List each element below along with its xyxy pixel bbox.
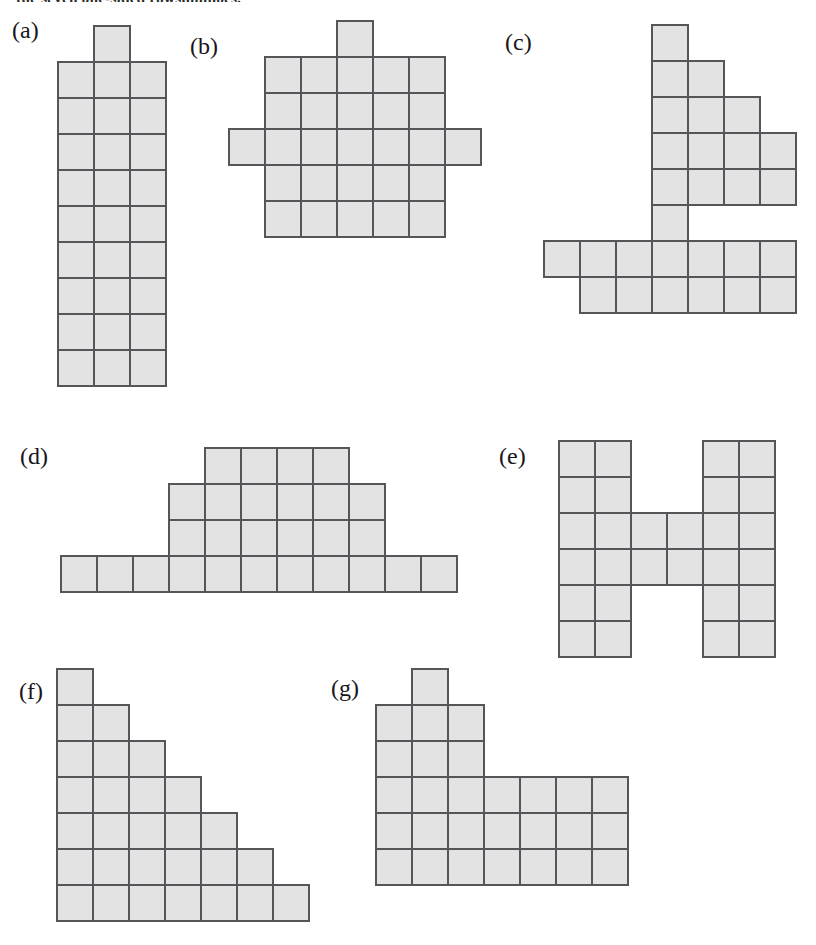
grid-cell (236, 848, 274, 886)
grid-cell (312, 483, 350, 521)
grid-cell (630, 512, 668, 550)
grid-cell (594, 548, 632, 586)
grid-cell (92, 740, 130, 778)
grid-cell (651, 60, 689, 98)
grid-cell (164, 812, 202, 850)
grid-cell (687, 60, 725, 98)
grid-cell (164, 884, 202, 922)
grid-cell (276, 483, 314, 521)
grid-cell (92, 704, 130, 742)
grid-cell (408, 164, 446, 202)
grid-cell (57, 313, 95, 351)
grid-cell (372, 56, 410, 94)
grid-cell (759, 132, 797, 170)
grid-cell (348, 519, 386, 557)
grid-cell (336, 164, 374, 202)
grid-cell (411, 668, 449, 706)
grid-cell (702, 584, 740, 622)
grid-cell (92, 884, 130, 922)
shape-label-f: (f) (19, 679, 43, 703)
grid-cell (93, 205, 131, 243)
grid-cell (372, 164, 410, 202)
grid-cell (132, 555, 170, 593)
grid-cell (56, 884, 94, 922)
grid-cell (408, 56, 446, 94)
grid-cell (129, 133, 167, 171)
grid-cell (129, 169, 167, 207)
grid-cell (93, 241, 131, 279)
grid-cell (264, 164, 302, 202)
grid-cell (483, 848, 521, 886)
grid-cell (93, 313, 131, 351)
grid-cell (57, 169, 95, 207)
grid-cell (164, 848, 202, 886)
grid-cell (372, 92, 410, 130)
grid-cell (738, 440, 776, 478)
grid-cell (200, 812, 238, 850)
grid-cell (93, 25, 131, 63)
grid-cell (759, 240, 797, 278)
grid-cell (555, 848, 593, 886)
grid-cell (738, 584, 776, 622)
grid-cell (236, 884, 274, 922)
grid-cell (57, 133, 95, 171)
grid-cell (336, 92, 374, 130)
grid-cell (336, 128, 374, 166)
grid-cell (411, 740, 449, 778)
grid-cell (447, 740, 485, 778)
grid-cell (129, 349, 167, 387)
grid-cell (93, 169, 131, 207)
grid-cell (447, 776, 485, 814)
grid-cell (594, 440, 632, 478)
grid-cell (408, 92, 446, 130)
grid-cell (312, 555, 350, 593)
grid-cell (57, 61, 95, 99)
grid-cell (594, 620, 632, 658)
grid-cell (738, 476, 776, 514)
grid-cell (56, 848, 94, 886)
grid-cell (336, 200, 374, 238)
grid-cell (129, 313, 167, 351)
grid-cell (579, 276, 617, 314)
grid-cell (666, 512, 704, 550)
grid-cell (375, 704, 413, 742)
grid-cell (60, 555, 98, 593)
grid-cell (128, 740, 166, 778)
grid-cell (519, 812, 557, 850)
grid-cell (128, 812, 166, 850)
grid-cell (93, 97, 131, 135)
shape-label-e: (e) (499, 444, 526, 468)
grid-cell (558, 476, 596, 514)
grid-cell (615, 240, 653, 278)
grid-cell (375, 776, 413, 814)
grid-cell (129, 205, 167, 243)
shape-label-d: (d) (20, 444, 48, 468)
grid-cell (594, 584, 632, 622)
grid-cell (276, 447, 314, 485)
grid-cell (759, 276, 797, 314)
grid-cell (555, 812, 593, 850)
grid-cell (702, 548, 740, 586)
grid-cell (93, 133, 131, 171)
grid-cell (723, 132, 761, 170)
grid-cell (687, 240, 725, 278)
grid-cell (240, 519, 278, 557)
grid-cell (204, 483, 242, 521)
grid-cell (375, 740, 413, 778)
grid-cell (411, 704, 449, 742)
grid-cell (651, 276, 689, 314)
grid-cell (57, 205, 95, 243)
grid-cell (312, 519, 350, 557)
grid-cell (129, 61, 167, 99)
grid-cell (543, 240, 581, 278)
grid-cell (56, 740, 94, 778)
grid-cell (447, 812, 485, 850)
grid-cell (300, 92, 338, 130)
grid-cell (204, 555, 242, 593)
grid-cell (555, 776, 593, 814)
grid-cell (558, 440, 596, 478)
grid-cell (336, 20, 374, 58)
grid-cell (651, 96, 689, 134)
grid-cell (723, 168, 761, 206)
grid-cell (519, 776, 557, 814)
